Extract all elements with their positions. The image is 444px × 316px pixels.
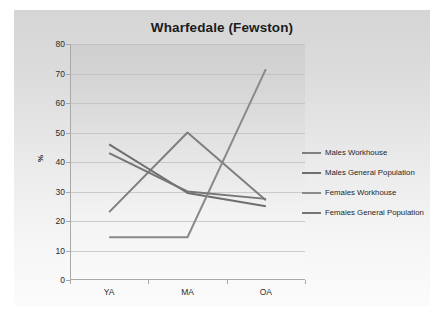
legend-item-label: Females Workhouse (325, 189, 396, 197)
y-tick-label: 60 (56, 98, 65, 108)
legend-item[interactable]: Females Workhouse (302, 183, 432, 203)
y-tick-label: 30 (56, 187, 65, 197)
legend-line-icon (302, 212, 321, 214)
y-tick-label: 20 (56, 216, 65, 226)
chart-title: Wharfedale (Fewston) (14, 20, 430, 35)
legend-line-icon (302, 152, 321, 154)
series-line (109, 133, 266, 213)
legend-item-label: Males General Population (325, 169, 415, 177)
chart-page: Wharfedale (Fewston) % 01020304050607080… (0, 0, 444, 316)
chart-canvas: Wharfedale (Fewston) % 01020304050607080… (14, 10, 430, 306)
plot-wrapper: 01020304050607080 YAMAOA (70, 44, 305, 280)
chart-legend: Males WorkhouseMales General PopulationF… (302, 143, 432, 223)
series-lines (70, 44, 305, 280)
x-tick-label: MA (181, 287, 194, 297)
y-tick-label: 70 (56, 69, 65, 79)
x-tick-mark (227, 280, 228, 284)
legend-line-icon (302, 172, 321, 174)
y-tick-label: 10 (56, 246, 65, 256)
legend-item-label: Females General Population (325, 209, 424, 217)
series-line (109, 69, 266, 237)
x-tick-label: OA (260, 287, 272, 297)
y-tick-label: 0 (60, 275, 65, 285)
y-tick-label: 50 (56, 128, 65, 138)
y-tick-label: 80 (56, 39, 65, 49)
legend-line-icon (302, 192, 321, 194)
x-tick-label: YA (104, 287, 115, 297)
legend-item[interactable]: Males Workhouse (302, 143, 432, 163)
y-tick-label: 40 (56, 157, 65, 167)
legend-item-label: Males Workhouse (325, 149, 387, 157)
x-tick-mark (70, 280, 71, 284)
x-tick-mark (148, 280, 149, 284)
legend-item[interactable]: Males General Population (302, 163, 432, 183)
x-tick-mark (305, 280, 306, 284)
y-axis-title: % (36, 155, 45, 162)
legend-item[interactable]: Females General Population (302, 203, 432, 223)
